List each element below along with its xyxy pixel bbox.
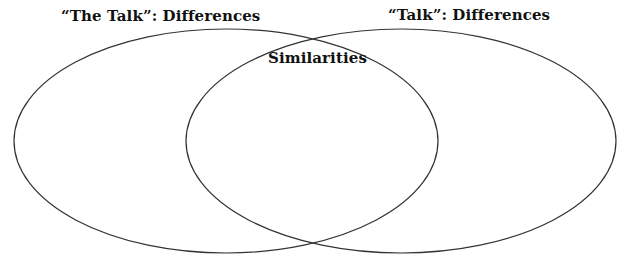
- left-set-label: “The Talk”: Differences: [61, 7, 260, 25]
- intersection-label: Similarities: [268, 49, 367, 67]
- right-set-ellipse: [186, 29, 616, 253]
- right-set-label: “Talk”: Differences: [388, 6, 550, 24]
- venn-diagram: [0, 0, 620, 262]
- left-set-ellipse: [14, 29, 438, 253]
